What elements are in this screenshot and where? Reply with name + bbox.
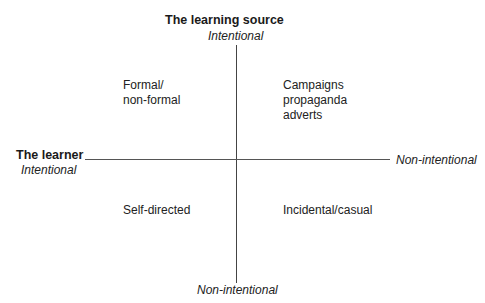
quadrant-text-line: non-formal <box>123 93 180 108</box>
quadrant-text-line: Self-directed <box>123 203 190 218</box>
horizontal-axis-line <box>85 159 390 160</box>
quadrant-top-right: Campaigns propaganda adverts <box>283 78 347 123</box>
horizontal-axis-title: The learner <box>16 148 83 162</box>
quadrant-bottom-left: Self-directed <box>123 203 190 218</box>
horizontal-axis-right-label: Non-intentional <box>396 153 477 167</box>
quadrant-text-line: propaganda <box>283 93 347 108</box>
quadrant-text-line: Campaigns <box>283 78 347 93</box>
quadrant-bottom-right: Incidental/casual <box>283 203 372 218</box>
quadrant-text-line: Incidental/casual <box>283 203 372 218</box>
quadrant-text-line: adverts <box>283 108 347 123</box>
vertical-axis-line <box>236 45 237 283</box>
horizontal-axis-left-label: Intentional <box>21 163 76 177</box>
quadrant-top-left: Formal/ non-formal <box>123 78 180 108</box>
quadrant-text-line: Formal/ <box>123 78 180 93</box>
vertical-axis-title: The learning source <box>165 13 284 27</box>
vertical-axis-top-label: Intentional <box>208 29 263 43</box>
vertical-axis-bottom-label: Non-intentional <box>197 283 278 297</box>
